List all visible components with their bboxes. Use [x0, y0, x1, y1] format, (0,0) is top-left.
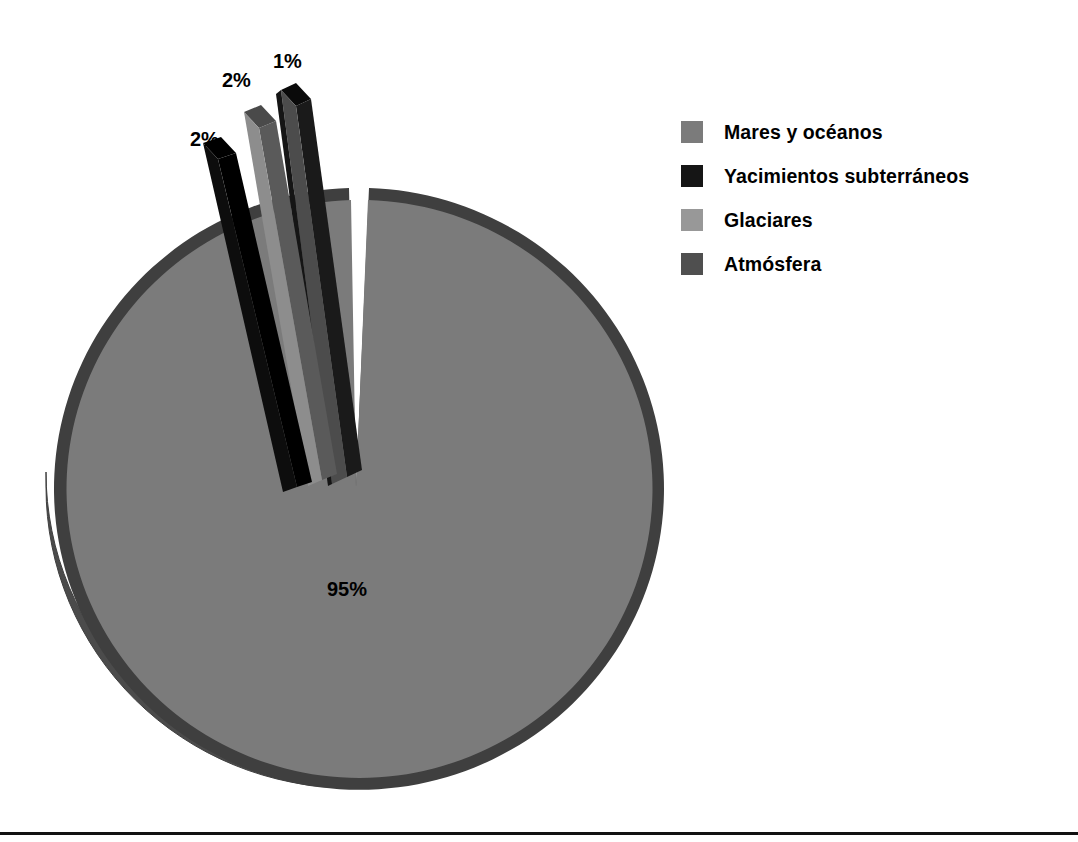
- pct-label-mares: 95%: [327, 578, 367, 601]
- pct-label-yacimientos: 2%: [190, 128, 219, 151]
- legend-label-glaciares: Glaciares: [724, 209, 813, 232]
- legend-item-yacimientos-subterraneos[interactable]: Yacimientos subterráneos: [681, 154, 1061, 198]
- legend-label-mares-y-oceanos: Mares y océanos: [724, 121, 883, 144]
- legend-item-glaciares[interactable]: Glaciares: [681, 198, 1061, 242]
- pie-chart-figure: 2% 2% 1% 95% Mares y océanos Yacimientos…: [0, 0, 1078, 842]
- chart-legend: Mares y océanos Yacimientos subterráneos…: [681, 110, 1061, 286]
- legend-swatch-yacimientos-subterraneos: [681, 165, 703, 187]
- pct-label-glaciares: 2%: [222, 69, 251, 92]
- legend-label-yacimientos-subterraneos: Yacimientos subterráneos: [724, 165, 969, 188]
- legend-item-atmosfera[interactable]: Atmósfera: [681, 242, 1061, 286]
- legend-swatch-mares-y-oceanos: [681, 121, 703, 143]
- slice-mares-y-oceanos[interactable]: [46, 188, 664, 790]
- pct-label-atmosfera: 1%: [273, 50, 302, 73]
- legend-item-mares-y-oceanos[interactable]: Mares y océanos: [681, 110, 1061, 154]
- legend-label-atmosfera: Atmósfera: [724, 253, 821, 276]
- slice-mares-face: [66, 200, 652, 778]
- legend-swatch-glaciares: [681, 209, 703, 231]
- bottom-divider-rule: [0, 832, 1078, 835]
- legend-swatch-atmosfera: [681, 253, 703, 275]
